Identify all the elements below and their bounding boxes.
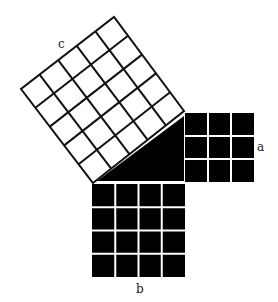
- label-b: b: [136, 282, 144, 296]
- square-a: [185, 113, 254, 182]
- label-a: a: [257, 140, 264, 154]
- square-b: [92, 184, 185, 277]
- pythagoras-diagram: c a b: [0, 0, 278, 302]
- diagram-canvas: c a b: [0, 0, 278, 302]
- label-c: c: [58, 37, 65, 51]
